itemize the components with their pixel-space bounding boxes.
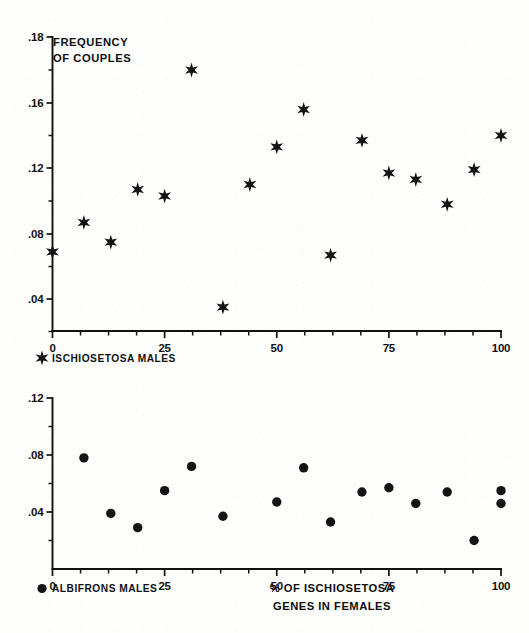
bottom-panel-x-tick-label: 25 [158, 580, 171, 592]
data-point-star [46, 244, 59, 259]
data-point-star [104, 235, 117, 250]
data-point-star [495, 128, 508, 143]
circle-marker-legend [37, 584, 46, 593]
bottom-panel-y-tick-label: .08 [28, 449, 44, 461]
data-point-star [409, 172, 422, 187]
data-point-star [382, 166, 395, 181]
top-panel-x-tick-label: 75 [383, 342, 396, 354]
bottom-panel-legend: ALBIFRONS MALES [37, 583, 157, 594]
bottom-panel-data-points [79, 453, 505, 545]
top-panel-title-line1: FREQUENCY [53, 36, 128, 48]
top-panel-y-tick-label: .16 [28, 97, 43, 109]
data-point-circle [496, 486, 505, 495]
star-marker-legend [36, 351, 49, 366]
bottom-panel-legend-label: ALBIFRONS MALES [52, 583, 157, 594]
bottom-panel-y-tick-label: .12 [28, 392, 43, 404]
data-point-star [217, 300, 230, 315]
data-point-star [324, 248, 337, 263]
data-point-star [77, 215, 90, 230]
data-point-circle [160, 486, 169, 495]
top-panel-y-tick-label: .12 [28, 162, 43, 174]
data-point-star [270, 139, 283, 154]
data-point-circle [384, 483, 393, 492]
data-point-star [158, 189, 171, 204]
top-panel-x-tick-label: 100 [492, 342, 511, 354]
data-point-circle [187, 462, 196, 471]
data-point-star [131, 182, 144, 197]
data-point-circle [272, 497, 281, 506]
data-point-circle [496, 499, 505, 508]
top-panel-y-tick-label: .18 [28, 31, 44, 43]
star-marker-legend-glyph [36, 351, 49, 366]
bottom-panel-x-tick-label: 100 [492, 580, 511, 592]
data-point-circle [442, 487, 451, 496]
data-point-circle [469, 536, 478, 545]
data-point-star [243, 177, 256, 192]
data-point-circle [133, 523, 142, 532]
top-panel-y-tick-label: .08 [28, 228, 44, 240]
data-point-circle [299, 463, 308, 472]
data-point-star [441, 197, 454, 212]
data-point-circle [106, 509, 115, 518]
x-axis-title-line1: % OF ISCHIOSETOSA [270, 582, 395, 594]
x-axis-title-line2: GENES IN FEMALES [273, 600, 391, 612]
top-panel-data-points [46, 63, 507, 315]
data-point-circle [357, 487, 366, 496]
top-panel-x-tick-label: 50 [271, 342, 283, 354]
data-point-star [356, 133, 369, 148]
top-panel-legend-label: ISCHIOSETOSA MALES [52, 353, 176, 364]
top-panel: .18.16.12.08.040255075100 [28, 31, 510, 354]
data-point-circle [79, 453, 88, 462]
data-point-circle [326, 517, 335, 526]
top-panel-y-tick-label: .04 [28, 293, 44, 305]
bottom-panel: .12.08.040255075100 [28, 392, 510, 592]
scatter-figure: .18.16.12.08.040255075100 .12.08.0402550… [0, 0, 529, 633]
top-panel-title-line2: OF COUPLES [53, 52, 131, 64]
data-point-star [468, 162, 481, 177]
data-point-star [185, 63, 198, 78]
top-panel-legend: ISCHIOSETOSA MALES [36, 351, 176, 366]
bottom-panel-y-tick-label: .04 [28, 506, 44, 518]
data-point-circle [218, 512, 227, 521]
data-point-circle [411, 499, 420, 508]
data-point-star [297, 102, 310, 117]
